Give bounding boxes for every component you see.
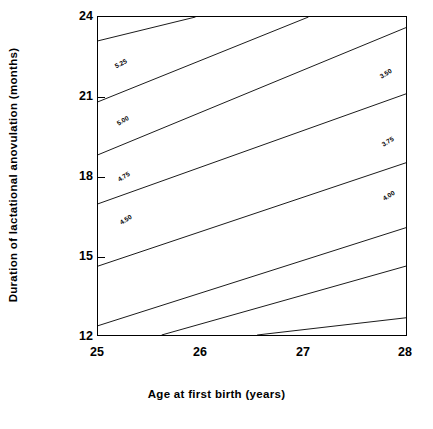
y-axis-tick-labels: 24 21 18 15 12 xyxy=(55,16,93,336)
contour-chart-figure: Duration of lactational anovulation (mon… xyxy=(0,0,433,429)
x-tick-label: 27 xyxy=(283,345,323,359)
x-tick-label: 26 xyxy=(180,345,220,359)
contour-line xyxy=(98,228,406,326)
contour-line xyxy=(98,163,406,266)
y-tick-label: 24 xyxy=(59,9,93,23)
contour-lines-group xyxy=(98,17,406,335)
y-tick-label: 18 xyxy=(59,169,93,183)
x-tick-label: 25 xyxy=(77,345,117,359)
contour-line xyxy=(98,17,308,102)
y-tick-label: 15 xyxy=(59,249,93,263)
x-axis-tick-labels: 25 26 27 28 xyxy=(97,345,407,365)
plot-area xyxy=(97,16,407,336)
y-axis-title: Duration of lactational anovulation (mon… xyxy=(0,0,26,350)
y-axis-title-text: Duration of lactational anovulation (mon… xyxy=(7,48,19,303)
contour-line xyxy=(98,28,406,155)
y-tick-label: 21 xyxy=(59,89,93,103)
y-tick-label: 12 xyxy=(59,329,93,343)
x-axis-title: Age at first birth (years) xyxy=(0,388,433,400)
contour-line xyxy=(257,318,406,335)
contour-line xyxy=(98,17,196,41)
contour-line xyxy=(98,94,406,204)
contour-line xyxy=(162,266,406,335)
x-tick-label: 28 xyxy=(385,345,425,359)
